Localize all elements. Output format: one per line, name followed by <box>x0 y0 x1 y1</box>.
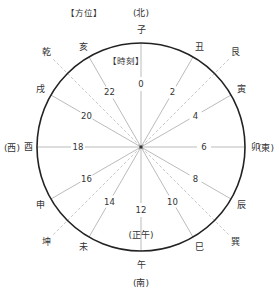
hour-label: 16 <box>81 174 92 184</box>
time-header: 【時刻】 <box>108 56 144 66</box>
zodiac-label: 丑 <box>195 42 204 52</box>
hour-label: 8 <box>193 174 198 184</box>
center-mark <box>140 146 143 149</box>
hour-label: 2 <box>170 87 175 97</box>
hour-line <box>202 182 231 199</box>
hour-label: 6 <box>201 142 206 152</box>
trigram-label: 艮 <box>231 47 240 57</box>
zodiac-label: 亥 <box>79 41 88 52</box>
hour-label: 0 <box>138 79 143 89</box>
direction-line <box>53 59 141 147</box>
zodiac-label: 申 <box>36 199 45 210</box>
hour-label: 4 <box>193 111 198 121</box>
noon-label: (正午) <box>128 229 153 240</box>
hour-line <box>51 95 80 112</box>
hour-line <box>89 208 106 237</box>
hour-line <box>202 95 231 112</box>
hour-line <box>51 182 80 199</box>
zodiac-label: 戌 <box>36 83 45 94</box>
direction-time-diagram: 0246810121416182022 子丑寅卯辰巳午未申酉戌亥 艮巽坤乾 【方… <box>0 0 279 288</box>
direction-line <box>53 147 141 235</box>
zodiac-label: 子 <box>137 25 146 35</box>
hour-line <box>89 57 106 86</box>
north-label: (北) <box>133 8 149 18</box>
south-label: (南) <box>133 277 149 288</box>
trigram-label: 巽 <box>231 237 240 247</box>
hour-label: 22 <box>104 87 115 97</box>
hour-line <box>176 208 193 237</box>
trigram-label: 乾 <box>42 46 51 57</box>
east-label: (東) <box>258 142 274 153</box>
zodiac-label: 寅 <box>237 83 246 94</box>
zodiac-label: 午 <box>137 259 146 270</box>
zodiac-label: 酉 <box>24 142 33 152</box>
zodiac-label: 巳 <box>195 242 204 252</box>
zodiac-label: 未 <box>79 241 88 252</box>
hour-line <box>176 57 193 86</box>
hour-label: 10 <box>167 197 178 207</box>
hour-label: 12 <box>136 205 147 215</box>
hour-label: 14 <box>104 197 115 207</box>
direction-line <box>141 59 229 147</box>
zodiac-label: 辰 <box>237 200 246 210</box>
west-label: (西) <box>4 143 20 153</box>
direction-header: 【方位】 <box>66 8 102 18</box>
hour-label: 18 <box>73 142 84 152</box>
direction-line <box>141 147 229 235</box>
hour-label: 20 <box>81 111 92 121</box>
trigram-label: 坤 <box>42 236 51 247</box>
